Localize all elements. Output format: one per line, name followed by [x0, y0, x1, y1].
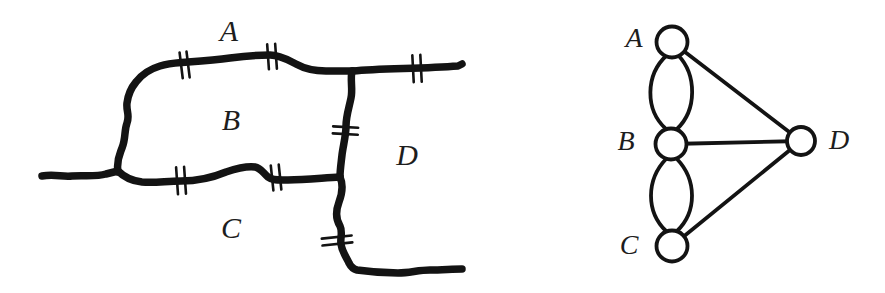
graph-vertex-b: [656, 129, 687, 160]
map-region-label-a: A: [220, 16, 238, 46]
figure-canvas: [0, 0, 885, 293]
map-region-label-d: D: [396, 140, 418, 170]
map-region-label-c: C: [221, 213, 241, 243]
graph-edge-b-d: [671, 141, 801, 144]
bridges-figure: A B C D A B C D: [0, 0, 885, 293]
graph-edge-b-c-left: [651, 159, 666, 231]
river-b-d: [340, 71, 352, 177]
graph-vertex-label-a: A: [625, 24, 642, 52]
graph-vertex-label-d: D: [829, 126, 849, 154]
graph-edge-a-b-left: [650, 55, 667, 129]
graph-vertex-label-b: B: [617, 127, 634, 155]
graph-edge-b-c-right: [677, 159, 692, 231]
graph-edge-a-b-right: [677, 55, 692, 129]
map-region-label-b: B: [222, 105, 240, 135]
graph-vertex-label-c: C: [620, 231, 639, 259]
graph-vertex-a: [657, 27, 688, 58]
bridge-marker-cd: [322, 235, 353, 245]
river-a-d: [353, 64, 462, 71]
graph-drawing: [650, 27, 815, 262]
graph-vertex-c: [657, 231, 688, 262]
graph-vertex-d: [787, 127, 815, 155]
river-c-d: [337, 177, 463, 273]
river-b-c: [42, 167, 340, 183]
